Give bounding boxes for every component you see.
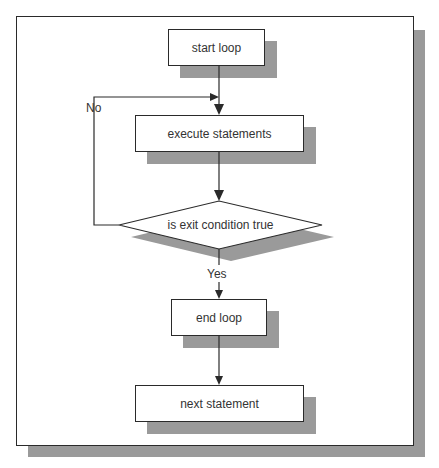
start-loop-label: start loop <box>192 41 241 55</box>
no-edge-label: No <box>86 101 101 115</box>
next-statement-label: next statement <box>180 397 259 411</box>
next-statement-node: next statement <box>135 385 304 422</box>
end-loop-label: end loop <box>196 311 242 325</box>
condition-label: is exit condition true <box>119 218 322 232</box>
execute-statements-label: execute statements <box>167 127 271 141</box>
start-loop-node: start loop <box>168 29 265 66</box>
end-loop-node: end loop <box>171 299 267 336</box>
yes-edge-label: Yes <box>207 267 227 281</box>
execute-statements-node: execute statements <box>135 115 304 152</box>
